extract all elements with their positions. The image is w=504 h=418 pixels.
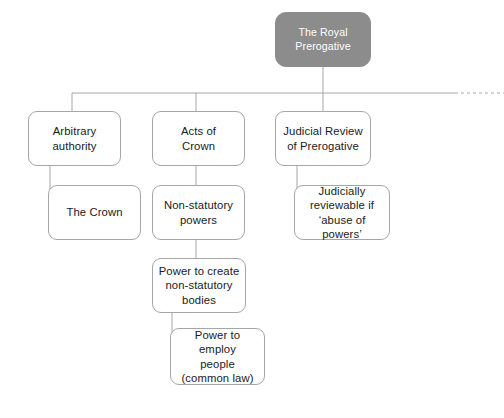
node-label-the-crown: The Crown [61,205,127,219]
node-the-crown[interactable]: The Crown [48,185,141,240]
node-label-non-statutory-powers: Non-statutory powers [159,198,238,227]
node-label-power-to-employ-people: Power to employ people (common law) [171,328,264,386]
node-acts-of-crown[interactable]: Acts of Crown [152,111,245,166]
node-label-judicial-review-of-prerogative: Judicial Review of Prerogative [278,124,367,153]
node-arbitrary-authority[interactable]: Arbitrary authority [28,111,121,166]
royal-prerogative-diagram: The Royal PrerogativeArbitrary authority… [0,0,504,418]
node-judicially-reviewable[interactable]: Judicially reviewable if ‘abuse of power… [294,185,390,240]
node-label-acts-of-crown: Acts of Crown [176,124,221,153]
node-root[interactable]: The Royal Prerogative [275,12,371,67]
node-non-statutory-powers[interactable]: Non-statutory powers [152,185,245,240]
node-power-to-employ-people[interactable]: Power to employ people (common law) [170,328,265,385]
node-label-root: The Royal Prerogative [290,26,355,53]
node-label-judicially-reviewable: Judicially reviewable if ‘abuse of power… [295,184,389,242]
node-label-power-to-create-non-statutory-bodies: Power to create non-statutory bodies [154,264,245,307]
node-judicial-review-of-prerogative[interactable]: Judicial Review of Prerogative [275,111,371,166]
node-power-to-create-non-statutory-bodies[interactable]: Power to create non-statutory bodies [152,258,246,313]
node-label-arbitrary-authority: Arbitrary authority [47,124,101,153]
